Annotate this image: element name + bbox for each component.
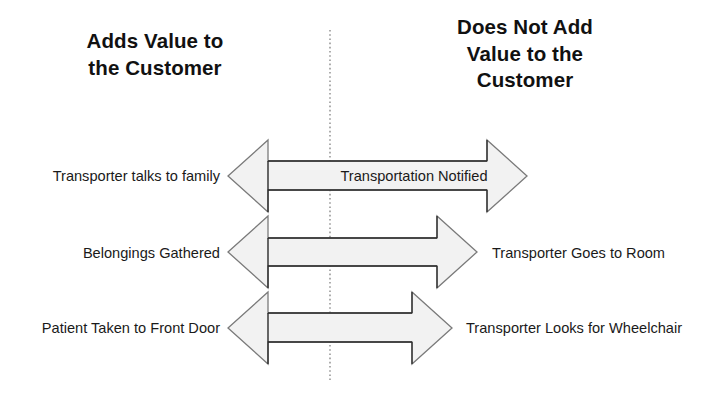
- row-3-left-label: Patient Taken to Front Door: [8, 320, 220, 338]
- arrow-group: [0, 0, 721, 405]
- row-1-left-label: Transporter talks to family: [14, 168, 220, 186]
- row-1-shaft-label: Transportation Notified: [330, 168, 498, 186]
- double-arrow-row-3: [228, 292, 452, 364]
- row-3-right-label: Transporter Looks for Wheelchair: [466, 320, 716, 338]
- double-arrow-row-2: [228, 216, 477, 288]
- row-2-left-label: Belongings Gathered: [14, 245, 220, 263]
- row-2-right-label: Transporter Goes to Room: [492, 245, 712, 263]
- diagram-canvas: Adds Value to the Customer Does Not Add …: [0, 0, 721, 405]
